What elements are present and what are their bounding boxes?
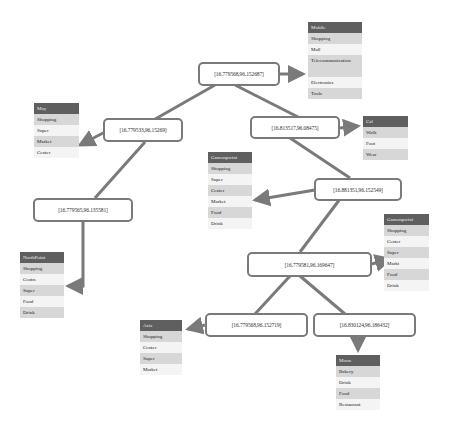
card-item: Electronics <box>308 77 362 88</box>
edge-n5-gamonpwint1 <box>255 190 315 200</box>
node-n1[interactable]: [16.779568,96.152687] <box>198 62 280 86</box>
node-n5[interactable]: [16.881351,96.152549] <box>314 178 402 201</box>
card-item: Center <box>140 342 182 353</box>
card-item: Super <box>384 247 429 258</box>
card-gamonpwint-1: Gamonpwint Shopping Super Center Market … <box>208 152 252 229</box>
card-gamonpwint-2: Gamonpwint Shopping Center Super Markt F… <box>384 214 429 291</box>
diagram-canvas: [16.779568,96.152687] [16.779533,96.1526… <box>0 0 449 437</box>
card-item: Super <box>34 125 79 136</box>
card-item: Market <box>34 136 79 147</box>
card-item: Super <box>20 285 64 296</box>
card-cal: Cal Walk Foot Wear <box>363 116 408 160</box>
card-item: Center <box>34 147 79 158</box>
card-may: May Shopping Super Market Center <box>34 103 79 158</box>
card-title: Moon <box>336 355 380 366</box>
card-item: Food <box>208 207 252 218</box>
node-n3[interactable]: [16.813517,96.08475] <box>250 116 340 139</box>
node-label: [16.881351,96.152549] <box>333 187 383 193</box>
edge-n7-asia <box>188 325 205 329</box>
card-item: Market <box>208 196 252 207</box>
card-item: Shopping <box>384 225 429 236</box>
card-item: Super <box>208 174 252 185</box>
edge-n1-n3 <box>235 85 300 118</box>
card-item: Market <box>140 364 182 375</box>
card-item: Centre <box>20 274 64 285</box>
card-northpoint: NorthPoint Shopping Centre Super Food Dr… <box>20 252 64 318</box>
card-item: Super <box>140 353 182 364</box>
edge-n1-n2 <box>150 85 215 122</box>
card-item: Bakery <box>336 366 380 377</box>
card-item: Drink <box>336 377 380 388</box>
card-item: Shopping <box>34 114 79 125</box>
card-asia: Asia Shopping Center Super Market <box>140 320 182 375</box>
card-item: Shopping <box>208 163 252 174</box>
card-mobile: Mobile Shopping Mall Telecommunication E… <box>308 22 362 99</box>
card-item: Food <box>20 296 64 307</box>
card-title: Gamonpwint <box>208 152 252 163</box>
card-item: Drink <box>20 307 64 318</box>
edge-n6-n8 <box>300 276 345 314</box>
edge-n3-cal <box>340 126 358 128</box>
node-label: [16.813517,96.08475] <box>271 125 318 131</box>
node-label: [16.830124,96.186432] <box>340 322 390 328</box>
node-n6[interactable]: [16.779581,96.169647] <box>247 252 372 277</box>
edge-n4-northpoint <box>68 222 83 286</box>
card-title: Gamonpwint <box>384 214 429 225</box>
node-label: [16.779568,96.152719] <box>232 322 282 328</box>
edge-n3-n5 <box>290 138 350 178</box>
edge-n6-n7 <box>255 276 290 314</box>
card-item: Restaurant <box>336 399 380 410</box>
edge-n2-n4 <box>95 142 145 198</box>
card-item: Shopping <box>140 331 182 342</box>
card-item: Shopping <box>20 263 64 274</box>
card-item: Wear <box>363 149 408 160</box>
card-item: Food <box>336 388 380 399</box>
card-item: Food <box>384 269 429 280</box>
node-label: [16.779565,96.135581] <box>58 207 108 213</box>
node-n8[interactable]: [16.830124,96.186432] <box>313 313 416 337</box>
card-item: Shopping <box>308 33 362 44</box>
card-item: Tools <box>308 88 362 99</box>
node-n2[interactable]: [16.779533,96.15269] <box>103 118 183 142</box>
node-label: [16.779568,96.152687] <box>214 71 264 77</box>
card-item: Markt <box>384 258 429 269</box>
card-moon: Moon Bakery Drink Food Restaurant <box>336 355 380 410</box>
card-title: May <box>34 103 79 114</box>
card-item: Center <box>208 185 252 196</box>
card-title: NorthPoint <box>20 252 64 263</box>
card-item: Center <box>384 236 429 247</box>
edge-n5-n6 <box>300 199 340 252</box>
node-label: [16.779533,96.15269] <box>119 127 166 133</box>
card-item: Walk <box>363 127 408 138</box>
edge-n2-may <box>80 132 105 145</box>
node-n7[interactable]: [16.779568,96.152719] <box>205 313 308 337</box>
card-item: Telecommunication <box>308 55 362 77</box>
node-n4[interactable]: [16.779565,96.135581] <box>33 198 133 222</box>
card-title: Asia <box>140 320 182 331</box>
card-title: Cal <box>363 116 408 127</box>
node-label: [16.779581,96.169647] <box>285 262 335 268</box>
card-item: Drink <box>384 280 429 291</box>
card-item: Foot <box>363 138 408 149</box>
card-item: Mall <box>308 44 362 55</box>
card-item: Drink <box>208 218 252 229</box>
card-title: Mobile <box>308 22 362 33</box>
